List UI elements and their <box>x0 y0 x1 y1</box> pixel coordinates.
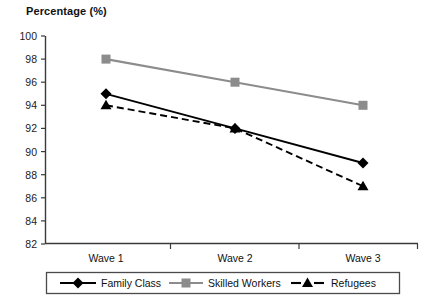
y-tick-label: 82 <box>25 238 37 250</box>
line-chart: Percentage (%) 100 98 96 94 92 90 88 <box>0 0 444 307</box>
x-axis-tick-labels: Wave 1 Wave 2 Wave 3 <box>88 252 380 264</box>
y-tick-label: 90 <box>25 146 37 158</box>
y-axis-ticks <box>41 36 45 244</box>
legend-label-skilled-workers: Skilled Workers <box>208 277 281 289</box>
y-tick-label: 94 <box>25 99 37 111</box>
series-line-refugees <box>106 105 363 186</box>
data-point-marker-diamond <box>358 158 369 169</box>
data-point-marker-square <box>231 78 240 87</box>
x-tick-label-wave-3: Wave 3 <box>345 252 380 264</box>
chart-legend: Family Class Skilled Workers Refugees <box>47 273 400 294</box>
series-refugees <box>101 100 369 190</box>
x-axis-ticks <box>171 244 418 249</box>
y-tick-label: 98 <box>25 53 37 65</box>
y-tick-label: 96 <box>25 76 37 88</box>
y-tick-label: 92 <box>25 122 37 134</box>
chart-plot-area: 100 98 96 94 92 90 88 86 84 82 Wave 1 Wa… <box>0 0 444 307</box>
y-tick-label: 86 <box>25 192 37 204</box>
y-tick-label: 88 <box>25 169 37 181</box>
legend-label-refugees: Refugees <box>331 277 376 289</box>
data-point-marker-square <box>102 55 111 64</box>
legend-label-family-class: Family Class <box>101 277 161 289</box>
series-skilled-workers <box>102 55 368 110</box>
y-tick-label: 84 <box>25 215 37 227</box>
data-point-marker-square <box>359 101 368 110</box>
series-family-class <box>101 88 369 168</box>
x-tick-label-wave-1: Wave 1 <box>88 252 123 264</box>
y-tick-label: 100 <box>19 30 37 42</box>
data-point-marker-triangle <box>101 100 112 110</box>
x-tick-label-wave-2: Wave 2 <box>217 252 252 264</box>
legend-marker-square <box>182 279 191 288</box>
y-axis-tick-labels: 100 98 96 94 92 90 88 86 84 82 <box>19 30 37 250</box>
data-point-marker-diamond <box>101 88 112 99</box>
legend-item-skilled-workers[interactable]: Skilled Workers <box>169 277 281 289</box>
